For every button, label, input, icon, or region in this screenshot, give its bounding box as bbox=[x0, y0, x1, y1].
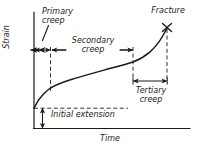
creep-curve-drawing bbox=[0, 0, 209, 148]
initial-extension-arrow bbox=[40, 108, 45, 129]
primary-creep-leader-line bbox=[43, 26, 49, 41]
tertiary-creep-label: Tertiarycreep bbox=[124, 86, 178, 104]
initial-extension-label: Initial extension bbox=[51, 110, 131, 119]
tertiary-creep-span-arrow bbox=[133, 78, 168, 85]
primary-creep-label: Primarycreep bbox=[42, 7, 88, 25]
fracture-label: Fracture bbox=[142, 6, 194, 15]
creep-curve-figure: Primarycreep Secondarycreep Tertiarycree… bbox=[0, 0, 209, 148]
x-axis-label: Time bbox=[88, 134, 132, 143]
y-axis-label: Strain bbox=[2, 14, 11, 60]
secondary-creep-label: Secondarycreep bbox=[67, 36, 119, 54]
